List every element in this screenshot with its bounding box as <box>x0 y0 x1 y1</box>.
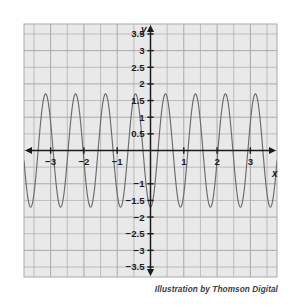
x-tick-label: 1 <box>181 156 187 167</box>
figure-caption: Illustration by Thomson Digital <box>155 285 278 294</box>
y-tick-label: 0.5 <box>131 128 145 139</box>
y-tick-label: 1.5 <box>131 95 145 106</box>
y-axis-label: y <box>140 24 147 35</box>
y-tick-label: 2 <box>139 78 144 89</box>
x-tick-label: 2 <box>214 156 219 167</box>
y-tick-label: −1 <box>134 178 146 189</box>
y-tick-label: −2 <box>134 212 145 223</box>
y-tick-label: 3 <box>139 45 144 56</box>
y-tick-label: 1 <box>139 112 145 123</box>
x-tick-label: −1 <box>112 156 124 167</box>
figure-container: −3−2−1123 3.532.521.510.5−1−1.5−2−2.5−3−… <box>0 0 300 307</box>
x-tick-label: 3 <box>248 156 253 167</box>
y-tick-label: 2.5 <box>131 62 145 73</box>
graph-svg: −3−2−1123 3.532.521.510.5−1−1.5−2−2.5−3−… <box>0 0 300 307</box>
y-tick-label: −3.5 <box>126 261 146 272</box>
x-tick-label: −2 <box>78 156 89 167</box>
y-tick-label: −1.5 <box>126 195 146 206</box>
x-tick-label: −3 <box>45 156 56 167</box>
y-tick-label: −2.5 <box>126 228 146 239</box>
x-axis-label: x <box>271 168 278 179</box>
y-tick-label: −3 <box>134 245 145 256</box>
